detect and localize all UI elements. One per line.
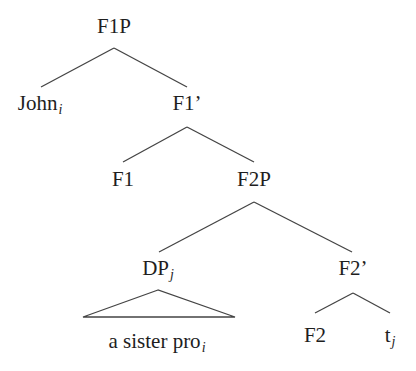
- node-index: i: [202, 340, 206, 355]
- edge-f1bar-f1: [123, 127, 187, 162]
- node-trace: tj: [385, 324, 396, 346]
- node-label: DP: [142, 256, 169, 280]
- node-label: a sister pro: [108, 329, 200, 353]
- node-f2: F2: [304, 324, 326, 346]
- node-label: F1: [112, 167, 134, 191]
- edge-f2p-dp: [159, 202, 254, 252]
- node-f1: F1: [112, 168, 134, 190]
- node-f2bar: F2’: [338, 257, 367, 279]
- node-f2p: F2P: [237, 168, 271, 190]
- node-label: t: [385, 323, 391, 347]
- edge-f1p-john: [41, 48, 114, 87]
- node-john: Johni: [18, 92, 63, 114]
- edge-f2p-f2bar: [254, 202, 352, 252]
- tree-edges: [0, 0, 416, 371]
- dp-triangle: [83, 290, 235, 317]
- edge-f2bar-trace: [353, 293, 390, 313]
- edge-f2bar-f2: [315, 293, 353, 313]
- node-label: F2: [304, 323, 326, 347]
- node-label: John: [18, 91, 58, 115]
- node-label: F2’: [338, 256, 367, 280]
- node-index: j: [391, 334, 395, 349]
- node-index: i: [58, 102, 62, 117]
- node-dp: DPj: [142, 257, 174, 279]
- edge-f1bar-f2p: [187, 127, 254, 162]
- edge-f1p-f1bar: [114, 48, 187, 87]
- node-f1bar: F1’: [172, 92, 201, 114]
- node-dp-content: a sister proi: [108, 330, 205, 352]
- node-f1p: F1P: [97, 15, 131, 37]
- node-label: F2P: [237, 167, 271, 191]
- node-index: j: [170, 267, 174, 282]
- node-label: F1P: [97, 14, 131, 38]
- syntax-tree: F1P Johni F1’ F1 F2P DPj F2’ a sister pr…: [0, 0, 416, 371]
- node-label: F1’: [172, 91, 201, 115]
